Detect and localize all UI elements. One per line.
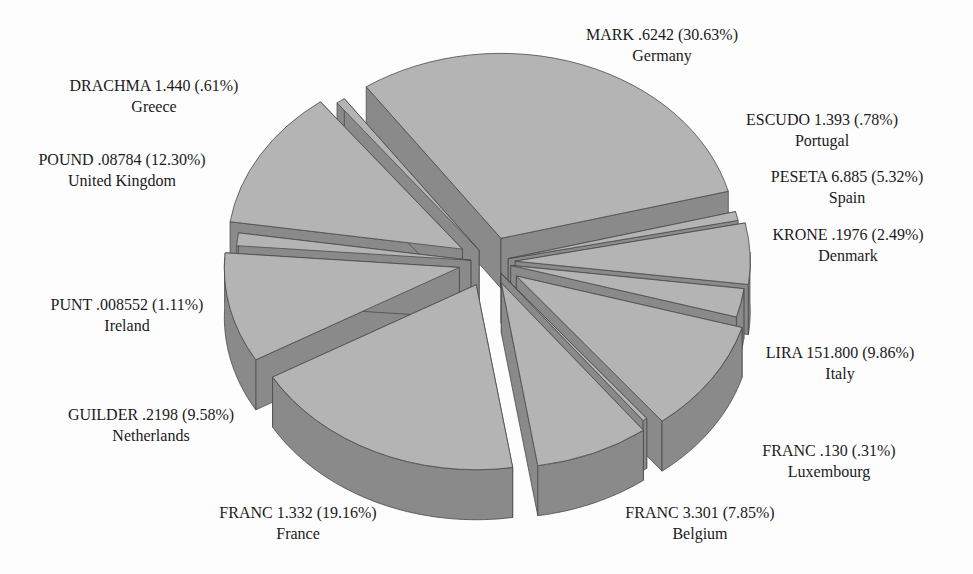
slice-label-value: LIRA 151.800 (9.86%) xyxy=(766,342,914,363)
slice-label-value: KRONE .1976 (2.49%) xyxy=(772,224,923,245)
slice-label: ESCUDO 1.393 (.78%)Portugal xyxy=(746,109,898,151)
slice-label-country: Portugal xyxy=(746,130,898,151)
slice-label-value: ESCUDO 1.393 (.78%) xyxy=(746,109,898,130)
slice-label: PUNT .008552 (1.11%)Ireland xyxy=(51,294,204,336)
slice-label: GUILDER .2198 (9.58%)Netherlands xyxy=(68,404,234,446)
slice-label-value: FRANC .130 (.31%) xyxy=(762,440,895,461)
slice-label: FRANC .130 (.31%)Luxembourg xyxy=(762,440,895,482)
slice-label-country: Germany xyxy=(586,45,738,66)
slice-label-value: DRACHMA 1.440 (.61%) xyxy=(70,75,239,96)
slice-label: LIRA 151.800 (9.86%)Italy xyxy=(766,342,914,384)
slice-label-value: FRANC 1.332 (19.16%) xyxy=(219,502,376,523)
slice-label-value: FRANC 3.301 (7.85%) xyxy=(625,502,774,523)
slice-label-value: PUNT .008552 (1.11%) xyxy=(51,294,204,315)
slice-label-country: France xyxy=(219,523,376,544)
slice-label-country: Ireland xyxy=(51,315,204,336)
slice-label: POUND .08784 (12.30%)United Kingdom xyxy=(38,149,205,191)
slice-label-value: PESETA 6.885 (5.32%) xyxy=(771,166,924,187)
slice-label-country: Belgium xyxy=(625,523,774,544)
slice-label-country: United Kingdom xyxy=(38,170,205,191)
slice-label-value: POUND .08784 (12.30%) xyxy=(38,149,205,170)
slice-label-country: Italy xyxy=(766,363,914,384)
slice-label: DRACHMA 1.440 (.61%)Greece xyxy=(70,75,239,117)
slice-label: FRANC 1.332 (19.16%)France xyxy=(219,502,376,544)
slice-label-country: Netherlands xyxy=(68,425,234,446)
slice-label-country: Spain xyxy=(771,187,924,208)
slice-label-value: GUILDER .2198 (9.58%) xyxy=(68,404,234,425)
slice-label: FRANC 3.301 (7.85%)Belgium xyxy=(625,502,774,544)
slice-label-value: MARK .6242 (30.63%) xyxy=(586,24,738,45)
slice-label-country: Denmark xyxy=(772,245,923,266)
slice-label-country: Luxembourg xyxy=(762,461,895,482)
slice-label: PESETA 6.885 (5.32%)Spain xyxy=(771,166,924,208)
slice-label: MARK .6242 (30.63%)Germany xyxy=(586,24,738,66)
slice-label: KRONE .1976 (2.49%)Denmark xyxy=(772,224,923,266)
slice-label-country: Greece xyxy=(70,96,239,117)
